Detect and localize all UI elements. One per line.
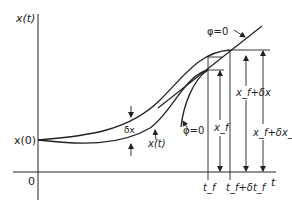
variational-endpoint-diagram: φ=0 φ=0 δx x(t) x_f x_f+δx x_f+δx_f x(t)… [0,0,292,208]
phi-label-bottom: φ=0 [183,125,204,136]
tf-label: t_f [203,182,217,194]
xf-dxf-label: x_f+δx_f [252,127,292,139]
diagram-canvas: φ=0 φ=0 δx x(t) x_f x_f+δx x_f+δx_f x(t)… [0,0,292,208]
origin-label: 0 [28,175,35,188]
xt-curve-label: x(t) [147,138,166,149]
phi-pointer-top [234,30,245,37]
tf-dtf-label: t_f+δt_f [226,182,267,194]
y-axis-label: x(t) [15,12,35,25]
xf-dx-label: x_f+δx [235,87,271,99]
dx-label: δx [124,125,136,135]
x-axis-label: t [271,176,276,189]
phi-label-top: φ=0 [207,26,228,37]
xf-label: x_f [213,122,230,134]
start-value-label: x(0) [14,134,36,147]
